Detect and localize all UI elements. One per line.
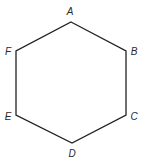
hexagon-diagram: A B C D E F xyxy=(0,0,148,163)
vertex-label-d: D xyxy=(68,148,75,159)
vertex-label-e: E xyxy=(5,111,12,122)
vertex-label-c: C xyxy=(130,111,138,122)
vertex-label-a: A xyxy=(66,6,74,17)
vertex-label-b: B xyxy=(131,46,138,57)
vertex-label-f: F xyxy=(5,46,12,57)
hexagon-outline xyxy=(16,22,126,143)
